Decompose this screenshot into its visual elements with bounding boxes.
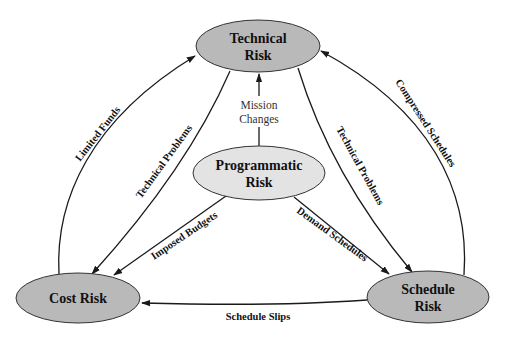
risk-relationship-diagram: Mission Changes Limited Funds Technical … <box>0 0 507 341</box>
technical-risk-ellipse <box>196 20 320 72</box>
technical-risk-label-1: Technical <box>229 31 286 46</box>
mission-changes-label-1: Mission <box>240 99 277 111</box>
imposed-budgets-arrow <box>114 196 226 275</box>
technical-risk-label-2: Risk <box>244 48 271 63</box>
edge-imposed-budgets: Imposed Budgets <box>114 196 226 275</box>
schedule-slips-label: Schedule Slips <box>226 311 290 322</box>
node-schedule-risk: Schedule Risk <box>367 271 489 323</box>
edge-schedule-slips: Schedule Slips <box>142 300 367 322</box>
limited-funds-label: Limited Funds <box>73 104 122 163</box>
schedule-risk-label-1: Schedule <box>401 282 455 297</box>
schedule-slips-arrow <box>142 300 367 304</box>
edge-mission-changes: Mission Changes <box>239 74 279 146</box>
programmatic-risk-ellipse <box>193 146 325 200</box>
cost-risk-label: Cost Risk <box>49 291 107 306</box>
node-programmatic-risk: Programmatic Risk <box>193 146 325 200</box>
demand-schedules-label: Demand Schedules <box>295 205 370 264</box>
technical-problems-right-label: Technical Problems <box>334 125 386 207</box>
imposed-budgets-label: Imposed Budgets <box>149 209 219 261</box>
edge-demand-schedules: Demand Schedules <box>294 197 389 274</box>
mission-changes-label-2: Changes <box>239 113 279 126</box>
schedule-risk-label-2: Risk <box>414 299 441 314</box>
node-technical-risk: Technical Risk <box>196 20 320 72</box>
programmatic-risk-label-1: Programmatic <box>216 158 303 173</box>
programmatic-risk-label-2: Risk <box>245 175 272 190</box>
technical-problems-left-label: Technical Problems <box>134 123 195 200</box>
compressed-schedules-label: Compressed Schedules <box>393 77 458 169</box>
node-cost-risk: Cost Risk <box>16 273 140 323</box>
schedule-risk-ellipse <box>367 271 489 323</box>
